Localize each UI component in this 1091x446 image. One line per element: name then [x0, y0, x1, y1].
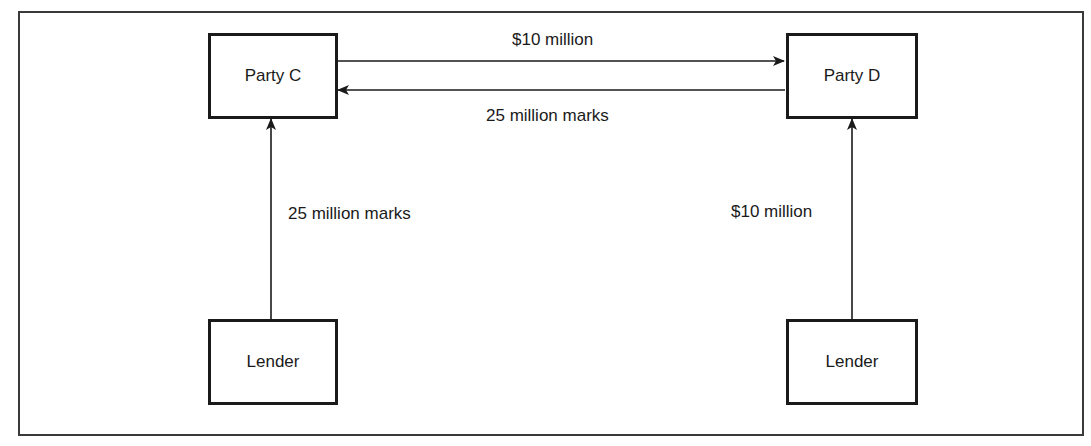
party-d-node: Party D	[786, 33, 918, 119]
party-c-node: Party C	[208, 33, 338, 119]
edge-label-lender-to-d: $10 million	[731, 202, 812, 222]
party-d-label: Party D	[824, 66, 881, 86]
lender-right-node: Lender	[786, 319, 918, 405]
lender-left-label: Lender	[247, 352, 300, 372]
party-c-label: Party C	[245, 66, 302, 86]
edge-label-lender-to-c: 25 million marks	[288, 204, 411, 224]
edge-label-d-to-c: 25 million marks	[486, 106, 609, 126]
arrows-layer	[0, 0, 1091, 446]
lender-right-label: Lender	[826, 352, 879, 372]
lender-left-node: Lender	[208, 319, 338, 405]
edge-label-c-to-d: $10 million	[512, 30, 593, 50]
